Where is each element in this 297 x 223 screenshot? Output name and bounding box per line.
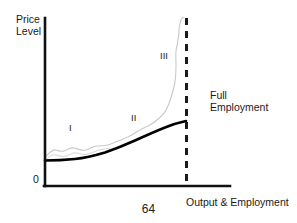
- sketch-outline-path: [46, 17, 184, 156]
- region-2-label: II: [131, 113, 136, 124]
- page-canvas: Price Level Output & Employment 0 Full E…: [0, 0, 297, 223]
- origin-label: 0: [33, 173, 39, 185]
- region-3-label: III: [160, 51, 168, 62]
- page-number: 64: [0, 203, 297, 217]
- aggregate-supply-curve: [45, 121, 186, 161]
- region-1-label: I: [69, 123, 72, 134]
- y-axis-label: Price Level: [16, 13, 41, 37]
- full-employment-label: Full Employment: [210, 89, 268, 113]
